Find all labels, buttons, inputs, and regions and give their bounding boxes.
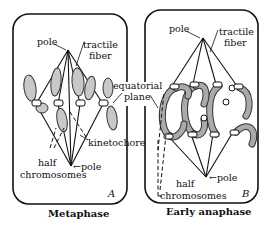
pole-label-b-bottom: ←pole [209,172,238,183]
fiber-label-b: fiber [224,37,247,48]
pole-label-b-top: pole [169,23,190,34]
pole-label-a-bottom: ←pole [73,161,102,172]
panel-letter-a: A [107,188,115,199]
equatorial-plane-annotation: equatorial plane [113,80,162,108]
tractile-pointer-b [210,30,218,52]
spindle-fibers-b [168,38,237,177]
fiber-label-a: fiber [89,50,112,61]
caption-metaphase: Metaphase [48,208,109,219]
panel-metaphase: pole tractile fiber kinetochore half chr… [13,14,146,219]
pole-label-a-top: pole [37,36,58,47]
half-chromosome-pointer-b2 [160,135,166,190]
kinetochore-label: kinetochore [88,137,146,148]
half-label-b: half [176,178,196,189]
mitosis-diagram: pole tractile fiber kinetochore half chr… [0,0,271,225]
chromosomes-b [162,82,254,144]
plane-label: plane [124,91,151,102]
panel-letter-b: B [241,188,249,199]
equatorial-label: equatorial [113,80,162,91]
panel-early-anaphase: pole tractile fiber half chromosomes ←po… [145,10,258,217]
caption-early-anaphase: Early anaphase [166,206,251,217]
chromosomes-label-b: chromosomes [160,190,227,201]
half-label-a: half [38,157,58,168]
tractile-label-b: tractile [219,26,254,37]
tractile-label-a: tractile [83,39,118,50]
